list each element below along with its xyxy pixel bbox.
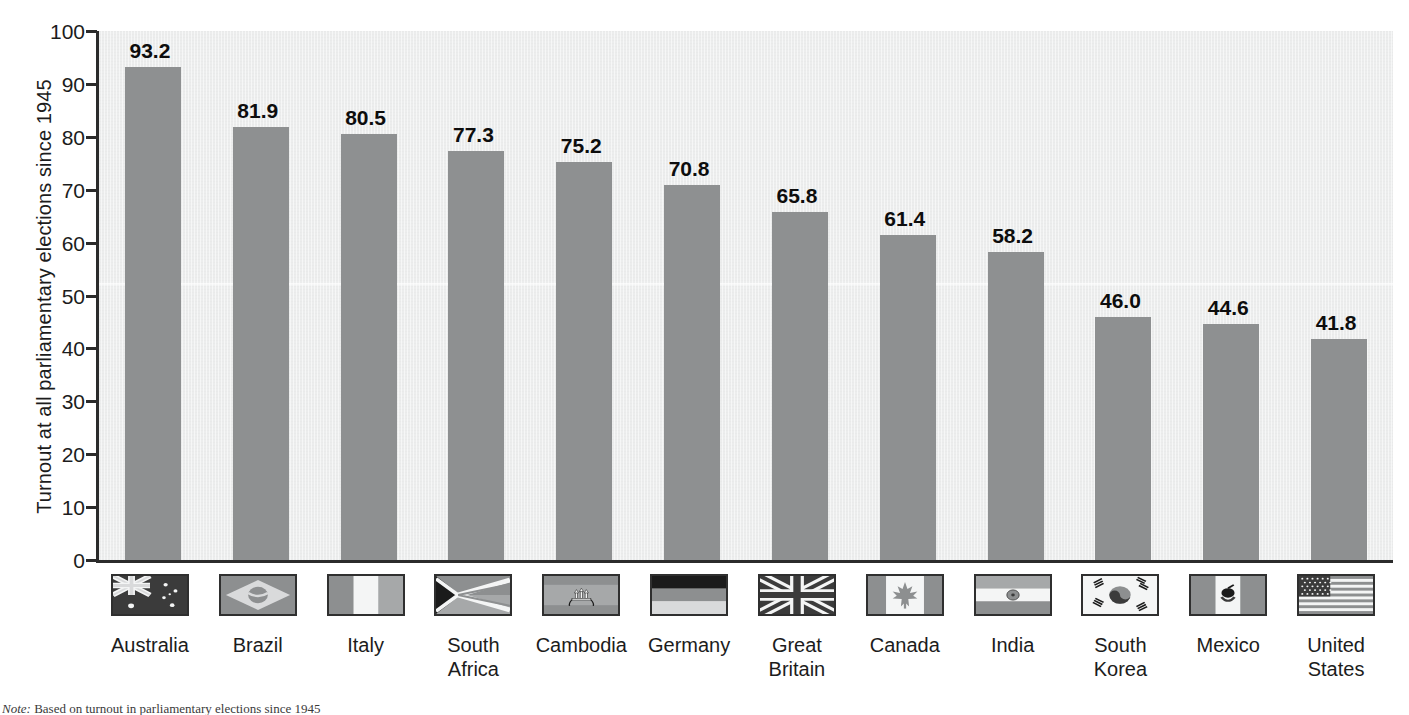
country-label-united-states: UnitedStates <box>1261 634 1409 681</box>
bar-value-label: 46.0 <box>1100 289 1141 313</box>
flag-germany-icon <box>650 574 728 616</box>
bar-value-label: 58.2 <box>992 224 1033 248</box>
bar-great-britain <box>772 212 828 560</box>
bar-south-korea <box>1095 317 1151 560</box>
flag-south-korea-icon <box>1081 574 1159 616</box>
bar-value-label: 77.3 <box>453 123 494 147</box>
flag-great-britain-icon <box>758 574 836 616</box>
bar-value-label: 80.5 <box>345 106 386 130</box>
bar-cambodia <box>556 162 612 560</box>
bar-australia <box>125 67 181 560</box>
country-label-line: Britain <box>722 658 872 682</box>
flag-cambodia-icon <box>542 574 620 616</box>
bar-canada <box>880 235 936 560</box>
bar-germany <box>664 185 720 560</box>
y-tick-mark <box>86 295 97 298</box>
y-tick-label: 50 <box>33 285 85 306</box>
bar-united-states <box>1311 339 1367 560</box>
y-tick-label: 70 <box>33 179 85 200</box>
y-tick-mark <box>86 30 97 33</box>
y-tick-label: 60 <box>33 232 85 253</box>
footnote-prefix: Note: <box>2 701 31 715</box>
flag-australia-icon <box>111 574 189 616</box>
bar-value-label: 93.2 <box>129 39 170 63</box>
flag-mexico-icon <box>1189 574 1267 616</box>
y-tick-mark <box>86 83 97 86</box>
country-label-line: Korea <box>1045 658 1195 682</box>
bar-value-label: 44.6 <box>1208 296 1249 320</box>
bar-south-africa <box>448 151 504 560</box>
bar-italy <box>341 134 397 560</box>
plot-texture <box>99 31 1393 560</box>
bar-value-label: 81.9 <box>237 99 278 123</box>
y-tick-label: 0 <box>33 550 85 571</box>
y-tick-mark <box>86 242 97 245</box>
flag-brazil-icon <box>219 574 297 616</box>
bar-value-label: 61.4 <box>884 207 925 231</box>
footnote: Note: Based on turnout in parliamentary … <box>2 701 1402 715</box>
bar-india <box>988 252 1044 560</box>
y-tick-label: 40 <box>33 338 85 359</box>
footnote-text: Based on turnout in parliamentary electi… <box>34 701 320 715</box>
y-tick-mark <box>86 347 97 350</box>
plot-area: 0102030405060708090100 <box>96 31 1393 563</box>
flag-united-states-icon <box>1297 574 1375 616</box>
flag-south-africa-icon <box>434 574 512 616</box>
y-tick-mark <box>86 453 97 456</box>
y-tick-label: 30 <box>33 391 85 412</box>
country-label-line: States <box>1261 658 1409 682</box>
country-label-line: United <box>1261 634 1409 658</box>
y-tick-mark <box>86 559 97 562</box>
y-tick-label: 10 <box>33 497 85 518</box>
y-tick-label: 20 <box>33 444 85 465</box>
y-tick-mark <box>86 189 97 192</box>
y-tick-mark <box>86 400 97 403</box>
bar-value-label: 70.8 <box>669 157 710 181</box>
country-label-line: Africa <box>398 658 548 682</box>
bar-value-label: 41.8 <box>1316 311 1357 335</box>
y-tick-label: 90 <box>33 73 85 94</box>
y-tick-label: 100 <box>33 21 85 42</box>
y-tick-mark <box>86 506 97 509</box>
bar-value-label: 75.2 <box>561 134 602 158</box>
scan-artifact-line <box>99 283 1393 286</box>
y-tick-label: 80 <box>33 126 85 147</box>
y-tick-mark <box>86 136 97 139</box>
bar-brazil <box>233 127 289 560</box>
flag-india-icon <box>974 574 1052 616</box>
bar-value-label: 65.8 <box>776 184 817 208</box>
flag-canada-icon <box>866 574 944 616</box>
bar-chart-figure: Turnout at all parliamentary elections s… <box>0 0 1409 715</box>
bar-mexico <box>1203 324 1259 560</box>
flag-italy-icon <box>327 574 405 616</box>
